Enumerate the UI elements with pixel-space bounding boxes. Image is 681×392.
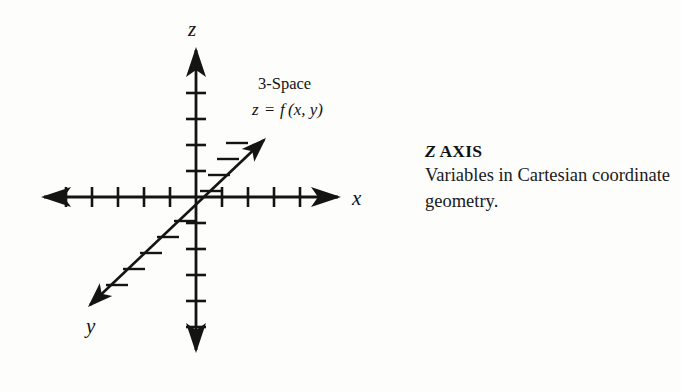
axes-svg: y [0,0,400,392]
y-axis-positive-ticks [200,143,248,191]
annotation-equation-equals: = [265,100,274,119]
annotation-equation-z: z [251,100,259,119]
annotation-equation-f: f [280,100,287,119]
caption-body: Variables in Cartesian coordinate geomet… [425,163,675,213]
z-axis-group: z [186,17,206,353]
caption-block: Z AXIS Variables in Cartesian coordinate… [425,140,675,214]
x-axis-group: x [41,186,362,210]
figure-page: y [0,0,681,392]
caption-term: Z [425,141,436,161]
caption-title-rest: AXIS [436,141,482,161]
annotation-3-space: 3-Space [258,74,311,93]
y-axis-label: y [84,314,96,338]
annotation-equation: z = f (x, y) [251,100,323,119]
z-axis-label: z [187,17,196,41]
y-axis-line [90,140,264,305]
annotation-equation-args: (x, y) [288,100,323,119]
x-axis-label: x [351,186,362,210]
caption-title: Z AXIS [425,140,675,162]
coordinate-axes-figure: y [0,0,400,392]
y-axis-group: y [82,132,273,338]
